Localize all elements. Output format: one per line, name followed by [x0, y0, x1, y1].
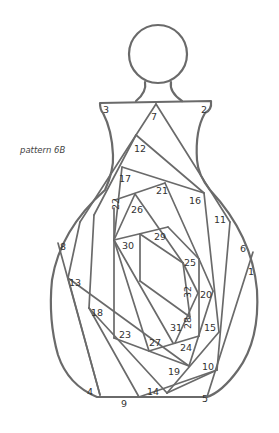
- piece-number-label: 28: [182, 317, 193, 329]
- piece-number-label: 32: [182, 286, 193, 298]
- piece-number-label: 9: [121, 398, 127, 409]
- piece-number-label: 29: [154, 231, 166, 242]
- piece-number-label: 1: [248, 266, 254, 277]
- bottle-outline-drawing: 1234567891011121314151617181920212223242…: [0, 0, 279, 433]
- piece-number-label: 27: [149, 337, 161, 348]
- pattern-segments: [58, 104, 253, 397]
- piece-number-label: 19: [168, 366, 180, 377]
- piece-number-label: 30: [122, 240, 134, 251]
- piece-number-label: 7: [151, 111, 157, 122]
- piece-number-label: 25: [184, 257, 196, 268]
- iris-fold-pattern-diagram: 1234567891011121314151617181920212223242…: [0, 0, 279, 433]
- piece-number-label: 2: [201, 104, 207, 115]
- piece-number-label: 23: [119, 329, 131, 340]
- piece-number-label: 18: [91, 307, 103, 318]
- bottle-neck: [136, 82, 182, 101]
- piece-number-label: 16: [189, 195, 201, 206]
- piece-number-label: 11: [214, 214, 226, 225]
- bottle-stopper-circle: [129, 25, 187, 83]
- piece-number-label: 13: [69, 277, 81, 288]
- piece-number-label: 5: [202, 393, 208, 404]
- piece-number-label: 14: [147, 386, 159, 397]
- piece-number-label: 10: [202, 361, 214, 372]
- piece-number-label: 22: [110, 198, 121, 210]
- piece-number-label: 12: [134, 143, 146, 154]
- piece-number-label: 15: [204, 322, 216, 333]
- piece-number-label: 8: [60, 241, 66, 252]
- piece-number-label: 3: [103, 104, 109, 115]
- pattern-caption: pattern 6B: [20, 145, 65, 155]
- piece-number-label: 6: [240, 243, 246, 254]
- piece-number-labels: 1234567891011121314151617181920212223242…: [60, 104, 254, 409]
- piece-number-label: 17: [119, 173, 131, 184]
- piece-number-label: 20: [200, 289, 212, 300]
- piece-number-label: 4: [87, 386, 93, 397]
- piece-number-label: 31: [170, 322, 182, 333]
- piece-number-label: 24: [180, 342, 192, 353]
- piece-number-label: 21: [156, 185, 168, 196]
- piece-number-label: 26: [131, 204, 143, 215]
